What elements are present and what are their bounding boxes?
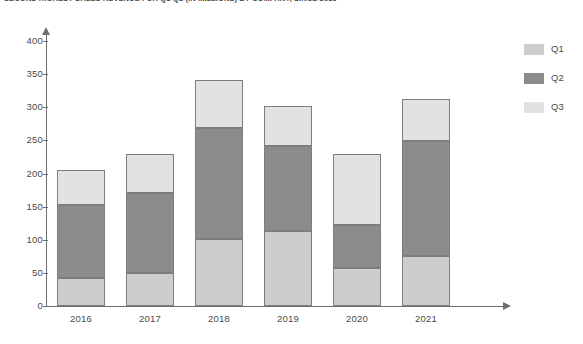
bar-segment-q3[interactable] (57, 170, 105, 206)
x-axis-label: 2017 (120, 313, 180, 324)
y-tick-label: 100 (27, 234, 43, 245)
bar-group[interactable] (195, 41, 243, 306)
legend-label: Q1 (551, 42, 564, 56)
y-axis-arrow-icon (42, 27, 50, 35)
bar-segment-q3[interactable] (333, 154, 381, 226)
bar-segment-q2[interactable] (264, 146, 312, 231)
bar-group[interactable] (333, 41, 381, 306)
y-tick-mark (43, 306, 48, 307)
chart-container: SECOND HIGHEST SALES REVENUE FOR Q1-Q3 (… (0, 0, 583, 344)
y-tick-label: 400 (27, 35, 43, 46)
bar-segment-q2[interactable] (195, 128, 243, 239)
x-axis-label: 2021 (396, 313, 456, 324)
legend-swatch-q2 (524, 73, 544, 84)
plot-area (46, 41, 466, 306)
x-axis-label: 2016 (51, 313, 111, 324)
bar-group[interactable] (57, 41, 105, 306)
y-tick-label: 300 (27, 101, 43, 112)
y-tick-label: 50 (32, 267, 43, 278)
x-axis-label: 2018 (189, 313, 249, 324)
legend-item-q1[interactable]: Q1 (524, 42, 580, 58)
bar-segment-q1[interactable] (195, 239, 243, 306)
bar-segment-q3[interactable] (402, 99, 450, 141)
x-axis-arrow-icon (503, 302, 511, 310)
chart-legend: Q1Q2Q3 (524, 42, 580, 129)
legend-swatch-q3 (524, 102, 544, 113)
y-tick-label: 250 (27, 134, 43, 145)
chart-title: SECOND HIGHEST SALES REVENUE FOR Q1-Q3 (… (4, 0, 564, 4)
bar-group[interactable] (126, 41, 174, 306)
bar-segment-q1[interactable] (57, 278, 105, 306)
bar-segment-q3[interactable] (264, 106, 312, 146)
bar-group[interactable] (264, 41, 312, 306)
y-tick-label: 200 (27, 168, 43, 179)
bar-group[interactable] (402, 41, 450, 306)
legend-item-q2[interactable]: Q2 (524, 71, 580, 87)
bar-segment-q2[interactable] (57, 205, 105, 277)
legend-item-q3[interactable]: Q3 (524, 100, 580, 116)
x-axis-label: 2019 (258, 313, 318, 324)
legend-label: Q3 (551, 100, 564, 114)
bar-segment-q2[interactable] (333, 225, 381, 267)
bar-segment-q1[interactable] (333, 268, 381, 306)
bar-segment-q3[interactable] (195, 80, 243, 128)
bar-segment-q1[interactable] (126, 273, 174, 306)
bar-segment-q1[interactable] (402, 256, 450, 306)
bar-segment-q2[interactable] (402, 141, 450, 256)
legend-swatch-q1 (524, 44, 544, 55)
legend-label: Q2 (551, 71, 564, 85)
bar-segment-q3[interactable] (126, 154, 174, 194)
bar-segment-q2[interactable] (126, 193, 174, 273)
x-axis-line (46, 306, 504, 307)
y-tick-label: 150 (27, 201, 43, 212)
bar-segment-q1[interactable] (264, 231, 312, 306)
y-tick-label: 350 (27, 68, 43, 79)
x-axis-label: 2020 (327, 313, 387, 324)
